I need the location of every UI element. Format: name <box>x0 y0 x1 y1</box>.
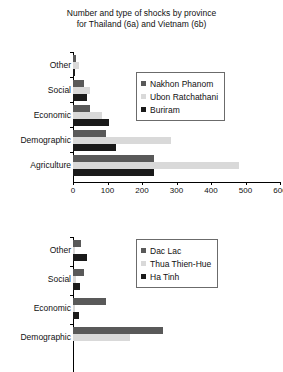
bar <box>73 144 116 151</box>
bar <box>73 155 154 162</box>
legend-item: Nakhon Phanom <box>141 77 218 90</box>
legend-6b: Dac Lac Thua Thien-Hue Ha Tinh <box>136 239 218 288</box>
legend-label: Dac Lac <box>150 246 181 256</box>
category-label: Economic <box>1 110 71 120</box>
bar <box>73 80 84 87</box>
y-axis-tick <box>70 77 73 78</box>
figure-title-line-1: Number and type of shocks by province <box>0 8 283 19</box>
bar <box>73 312 79 319</box>
x-axis-tick-label: 600 <box>273 186 283 195</box>
y-axis-tick <box>70 127 73 128</box>
chart-vietnam-6b: OtherSocialEconomicDemographic Dac Lac T… <box>0 237 283 372</box>
category-label: Other <box>1 60 71 70</box>
category-label: Other <box>1 245 71 255</box>
bar <box>73 283 80 290</box>
legend-label: Buriram <box>150 105 180 115</box>
bar <box>73 240 81 247</box>
x-axis-tick-label: 400 <box>204 186 217 195</box>
bar <box>73 62 79 69</box>
bar <box>73 119 109 126</box>
category-label: Agriculture <box>1 160 71 170</box>
bar <box>73 247 75 254</box>
bar <box>73 334 130 341</box>
bar <box>73 276 76 283</box>
category-label: Demographic <box>1 135 71 145</box>
bar <box>73 254 87 261</box>
x-axis-tick-label: 500 <box>239 186 252 195</box>
bar <box>73 137 171 144</box>
legend-item: Ubon Ratchathani <box>141 90 218 103</box>
y-axis-tick <box>70 324 73 325</box>
bar <box>73 298 106 305</box>
y-axis-tick <box>70 266 73 267</box>
x-axis-tick <box>280 182 281 185</box>
legend-item: Buriram <box>141 103 218 116</box>
legend-swatch-icon <box>141 107 146 112</box>
y-axis-tick <box>70 152 73 153</box>
figure-title: Number and type of shocks by province fo… <box>0 8 283 30</box>
x-axis-tick-label: 300 <box>170 186 183 195</box>
legend-swatch-icon <box>141 274 146 279</box>
legend-label: Thua Thien-Hue <box>150 259 211 269</box>
y-axis-tick <box>70 52 73 53</box>
legend-item: Ha Tinh <box>141 270 211 283</box>
y-axis-tick <box>70 295 73 296</box>
legend-label: Nakhon Phanom <box>150 79 213 89</box>
legend-swatch-icon <box>141 94 146 99</box>
legend-swatch-icon <box>141 81 146 86</box>
category-label: Demographic <box>1 332 71 342</box>
y-axis-tick <box>70 237 73 238</box>
bar <box>73 112 102 119</box>
legend-label: Ubon Ratchathani <box>150 92 218 102</box>
x-axis-tick <box>73 182 74 185</box>
x-axis-tick-label: 0 <box>71 186 75 195</box>
figure-title-line-2: for Thailand (6a) and Vietnam (6b) <box>0 19 283 30</box>
bar <box>73 69 75 76</box>
x-axis-tick <box>246 182 247 185</box>
bar <box>73 87 90 94</box>
bar <box>73 305 75 312</box>
bar <box>73 269 84 276</box>
category-label: Social <box>1 274 71 284</box>
bar <box>73 94 87 101</box>
bar <box>73 130 106 137</box>
category-label: Social <box>1 85 71 95</box>
bar <box>73 327 163 334</box>
bar <box>73 169 154 176</box>
x-axis-tick-label: 200 <box>135 186 148 195</box>
legend-swatch-icon <box>141 261 146 266</box>
x-axis-tick-label: 100 <box>101 186 114 195</box>
legend-label: Ha Tinh <box>150 272 179 282</box>
legend-swatch-icon <box>141 248 146 253</box>
x-axis-tick <box>108 182 109 185</box>
x-axis-tick <box>142 182 143 185</box>
x-axis-tick <box>211 182 212 185</box>
bar <box>73 105 90 112</box>
legend-6a: Nakhon Phanom Ubon Ratchathani Buriram <box>136 72 225 121</box>
bar <box>73 55 76 62</box>
x-axis-tick <box>177 182 178 185</box>
legend-item: Dac Lac <box>141 244 211 257</box>
chart-thailand-6a: OtherSocialEconomicDemographicAgricultur… <box>0 52 283 207</box>
category-label: Economic <box>1 303 71 313</box>
legend-item: Thua Thien-Hue <box>141 257 211 270</box>
bar <box>73 162 239 169</box>
y-axis-tick <box>70 102 73 103</box>
